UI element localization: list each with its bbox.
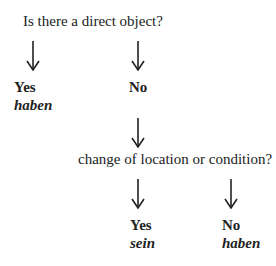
branch2-yes-result: sein [130, 235, 155, 252]
question-direct-object: Is there a direct object? [23, 13, 163, 30]
arrow-down-icon [130, 118, 146, 148]
branch1-yes-result: haben [14, 97, 52, 114]
arrow-down-icon [223, 179, 239, 209]
arrow-down-icon [130, 179, 146, 209]
arrow-down-icon [130, 41, 146, 71]
branch1-no-label: No [129, 79, 147, 96]
question-change-location: change of location or condition? [78, 151, 272, 168]
branch2-yes-label: Yes [130, 217, 152, 234]
branch1-yes-label: Yes [14, 79, 36, 96]
branch2-no-label: No [222, 217, 240, 234]
branch2-no-result: haben [222, 235, 260, 252]
arrow-down-icon [25, 41, 41, 71]
